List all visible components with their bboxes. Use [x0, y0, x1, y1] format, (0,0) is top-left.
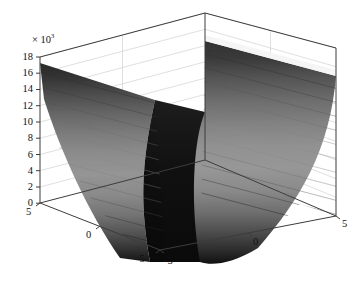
x-tick-label-0: 0 — [86, 230, 91, 241]
y-tick-label-minus5: -5 — [164, 256, 173, 267]
x-tick-label-left-5: 5 — [26, 207, 31, 218]
z-tick-label-16: 16 — [12, 68, 33, 79]
exponent-label: × 103 — [32, 33, 54, 45]
x-tick-label-minus5: -5 — [136, 254, 145, 265]
exponent-prefix: × 10 — [32, 34, 51, 45]
y-tick-label-0: 0 — [253, 237, 258, 248]
z-tick-label-8: 8 — [12, 133, 33, 144]
z-tick-marks — [36, 57, 40, 203]
z-tick-label-10: 10 — [12, 117, 33, 128]
figure-canvas: × 103 18 16 14 12 10 8 6 4 2 0 5 0 -5 -5… — [0, 0, 364, 292]
y-tick-label-5: 5 — [342, 219, 347, 230]
z-tick-label-14: 14 — [12, 84, 33, 95]
z-tick-label-6: 6 — [12, 150, 33, 161]
exponent-value: 3 — [51, 32, 54, 39]
z-tick-label-18: 18 — [12, 52, 33, 63]
z-tick-label-12: 12 — [12, 101, 33, 112]
z-tick-label-2: 2 — [12, 182, 33, 193]
surface-plot-svg — [0, 0, 364, 292]
z-tick-label-4: 4 — [12, 166, 33, 177]
